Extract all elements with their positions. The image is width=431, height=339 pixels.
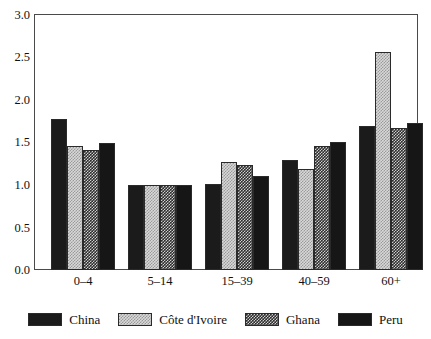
bar-china xyxy=(51,119,67,270)
legend-swatch-icon xyxy=(28,313,62,326)
legend-item-cote-divoire: Côte d'Ivoire xyxy=(118,313,227,326)
x-axis: 0–4 5–14 15–39 40–59 60+ xyxy=(35,274,417,292)
legend-swatch-icon xyxy=(245,313,279,326)
bar-china xyxy=(282,160,298,271)
legend-swatch-icon xyxy=(118,313,152,326)
bar-cote-divoire xyxy=(298,169,314,270)
chart-legend: China Côte d'Ivoire Ghana Peru xyxy=(0,308,431,330)
bar-group xyxy=(201,15,273,270)
bar-cote-divoire xyxy=(144,185,160,270)
bar-china xyxy=(128,185,144,270)
legend-item-china: China xyxy=(28,313,100,326)
bar-cote-divoire xyxy=(221,162,237,270)
y-tick-label: 0.5 xyxy=(0,221,30,236)
y-tick-label: 1.0 xyxy=(0,178,30,193)
bar-ghana xyxy=(160,185,176,270)
y-tick-label: 2.5 xyxy=(0,50,30,65)
bar-group xyxy=(278,15,350,270)
x-tick-label: 0–4 xyxy=(74,274,93,289)
bar-group xyxy=(124,15,196,270)
legend-label: Côte d'Ivoire xyxy=(159,313,227,326)
bar-ghana xyxy=(237,165,253,270)
bar-ghana xyxy=(314,146,330,270)
bar-ghana xyxy=(83,150,99,270)
y-axis: 3.0 2.5 2.0 1.5 1.0 0.5 0.0 xyxy=(0,0,34,339)
bar-china xyxy=(359,126,375,270)
bar-peru xyxy=(253,176,269,270)
bar-ghana xyxy=(391,128,407,270)
x-tick-label: 15–39 xyxy=(221,274,252,289)
plot-area xyxy=(35,15,417,270)
legend-swatch-icon xyxy=(338,313,372,326)
legend-label: Peru xyxy=(379,313,403,326)
y-tick-label: 1.5 xyxy=(0,135,30,150)
bar-peru xyxy=(176,185,192,270)
legend-label: Ghana xyxy=(286,313,320,326)
bar-group xyxy=(355,15,427,270)
bar-chart: 3.0 2.5 2.0 1.5 1.0 0.5 0.0 xyxy=(0,0,431,339)
x-tick-label: 40–59 xyxy=(298,274,329,289)
legend-item-peru: Peru xyxy=(338,313,403,326)
bar-group xyxy=(47,15,119,270)
y-tick-label: 2.0 xyxy=(0,93,30,108)
y-tick-label: 0.0 xyxy=(0,263,30,278)
bar-peru xyxy=(99,143,115,270)
bar-peru xyxy=(330,142,346,270)
x-tick-label: 60+ xyxy=(381,274,401,289)
legend-item-ghana: Ghana xyxy=(245,313,320,326)
bar-china xyxy=(205,184,221,270)
y-tick-label: 3.0 xyxy=(0,8,30,23)
bar-cote-divoire xyxy=(67,146,83,270)
bar-peru xyxy=(407,123,423,270)
bar-cote-divoire xyxy=(375,52,391,271)
legend-label: China xyxy=(69,313,100,326)
x-tick-label: 5–14 xyxy=(148,274,173,289)
